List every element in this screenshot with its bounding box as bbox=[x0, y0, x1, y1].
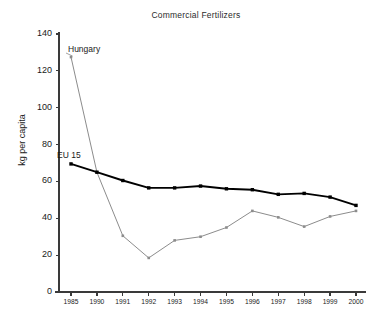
series-line bbox=[71, 57, 356, 258]
data-point bbox=[302, 192, 305, 195]
data-point bbox=[303, 225, 306, 228]
data-point bbox=[173, 186, 176, 189]
series-label-hungary: Hungary bbox=[68, 44, 100, 54]
series-eu-15 bbox=[69, 162, 357, 207]
data-point bbox=[147, 257, 150, 260]
data-point bbox=[225, 226, 228, 229]
series-hungary bbox=[70, 56, 358, 259]
chart-container: Commercial Fertilizers kg per capita 020… bbox=[0, 0, 392, 330]
data-point bbox=[121, 179, 124, 182]
data-point bbox=[328, 195, 331, 198]
data-point bbox=[199, 235, 202, 238]
plot-area bbox=[0, 0, 392, 330]
axes bbox=[55, 32, 366, 296]
data-point bbox=[199, 184, 202, 187]
data-point bbox=[147, 186, 150, 189]
data-point bbox=[69, 162, 72, 165]
data-point bbox=[277, 193, 280, 196]
data-point bbox=[225, 187, 228, 190]
series-line bbox=[71, 164, 356, 205]
series-label-eu15: EU 15 bbox=[57, 150, 81, 160]
data-point bbox=[251, 210, 254, 213]
data-point bbox=[122, 234, 125, 237]
data-point bbox=[95, 171, 98, 174]
data-point bbox=[354, 204, 357, 207]
data-point bbox=[173, 239, 176, 242]
data-series bbox=[66, 53, 358, 259]
data-point bbox=[277, 216, 280, 219]
data-point bbox=[355, 210, 358, 213]
data-point bbox=[329, 215, 332, 218]
data-point bbox=[251, 188, 254, 191]
